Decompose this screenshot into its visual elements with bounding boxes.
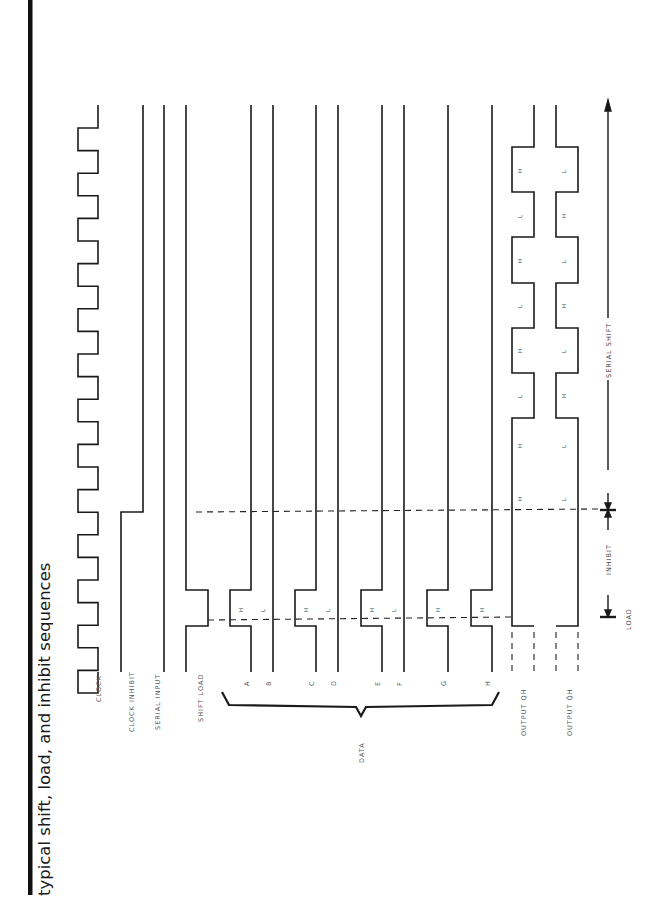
data-d-level: L — [325, 608, 331, 612]
clock-waveform — [78, 105, 98, 693]
data-e-waveform — [361, 105, 382, 672]
output-qh-level: H — [517, 497, 523, 501]
data-c-waveform — [295, 105, 316, 672]
data-g-level: H — [435, 608, 441, 612]
signal-label-output-qh: OUTPUT QH — [520, 688, 528, 736]
inhibit-label: INHIBIT — [605, 544, 613, 575]
output-qh-bar-level: L — [561, 169, 567, 173]
output-qh-level: L — [517, 394, 523, 398]
signal-label-output-qh-bar: OUTPUT Q̄H — [566, 688, 574, 736]
timing-diagram: typical shift, load, and inhibit sequenc… — [0, 0, 669, 913]
arrow-up-icon — [605, 100, 611, 111]
signal-label-clock-inhibit: CLOCK INHIBIT — [128, 671, 136, 732]
signal-label-data-c: C — [308, 680, 316, 686]
data-c-level: H — [303, 608, 309, 612]
output-qh-level: H — [517, 169, 523, 173]
data-h-level: H — [479, 608, 485, 612]
signal-label-data-b: B — [265, 681, 273, 686]
load-reference-line — [208, 617, 512, 620]
data-g-waveform — [427, 105, 448, 672]
signal-label-clock: CLOCK — [95, 675, 103, 702]
data-a-waveform — [230, 105, 251, 672]
signal-label-data-f: F — [396, 681, 404, 686]
output-qh-bar-level: L — [561, 349, 567, 353]
load-label: LOAD — [625, 608, 633, 630]
serial-shift-label: SERIAL SHIFT — [605, 323, 613, 378]
output-qh-level: L — [517, 214, 523, 218]
data-h-waveform — [471, 105, 492, 672]
output-qh-waveform — [512, 105, 534, 626]
output-qh-level: H — [517, 259, 523, 263]
inhibit-reference-line — [196, 509, 600, 512]
output-qh-bar-level: L — [561, 259, 567, 263]
signal-label-shift-load: SHIFT LOAD — [197, 674, 205, 722]
output-qh-level: H — [517, 444, 523, 448]
signal-label-data-g: G — [440, 680, 448, 686]
shift-load-waveform — [186, 105, 208, 672]
data-e-level: H — [369, 608, 375, 612]
output-qh-level: L — [517, 304, 523, 308]
signal-label-data-d: D — [330, 680, 338, 686]
data-a-level: H — [238, 608, 244, 612]
output-qh-bar-level: L — [561, 444, 567, 448]
signal-label-data-e: E — [374, 681, 382, 686]
output-qh-bar-level: H — [561, 394, 567, 398]
data-b-level: L — [260, 608, 266, 612]
output-qh-bar-level: H — [561, 214, 567, 218]
clock-inhibit-waveform — [121, 105, 143, 672]
signal-label-data-a: A — [243, 681, 251, 686]
output-qh-bar-level: L — [561, 497, 567, 501]
data-brace — [222, 692, 499, 716]
data-group-label: DATA — [358, 742, 366, 763]
data-f-level: L — [391, 608, 397, 612]
timing-diagram-page: typical shift, load, and inhibit sequenc… — [0, 0, 669, 913]
output-qh-level: H — [517, 349, 523, 353]
output-qh-bar-waveform — [556, 105, 578, 626]
title-rule — [28, 0, 33, 895]
output-qh-bar-level: H — [561, 304, 567, 308]
signal-label-data-h: H — [484, 680, 492, 686]
signal-label-serial-input: SERIAL INPUT — [154, 674, 162, 730]
page-title: typical shift, load, and inhibit sequenc… — [35, 563, 54, 896]
